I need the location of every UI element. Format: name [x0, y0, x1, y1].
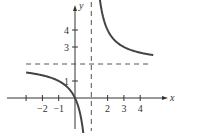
x-axis-label: x [169, 92, 175, 103]
y-axis-label: y [78, 0, 84, 11]
y-tick-label: 3 [64, 42, 69, 53]
x-tick-label: 4 [138, 103, 143, 114]
y-tick-label: 4 [64, 25, 69, 36]
y-axis-arrow-icon [73, 5, 77, 11]
x-tick-label: 3 [121, 103, 126, 114]
x-tick-label: −1 [53, 103, 64, 114]
x-tick-label: 2 [105, 103, 110, 114]
x-tick-label: −2 [37, 103, 48, 114]
x-axis-arrow-icon [162, 96, 168, 100]
curve-right-branch [98, 0, 153, 55]
function-graph: xy−2−1234134 [0, 0, 213, 133]
